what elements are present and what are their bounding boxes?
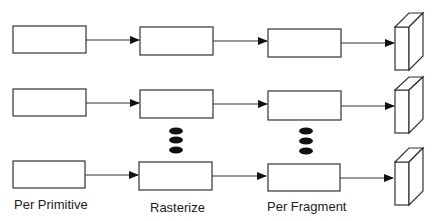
pipeline-row-2 bbox=[13, 77, 423, 133]
framebuffer-block-icon bbox=[395, 148, 423, 205]
per-primitive-box bbox=[13, 161, 85, 188]
rasterize-box bbox=[140, 27, 213, 55]
per-fragment-box bbox=[268, 29, 341, 57]
label-per-primitive: Per Primitive bbox=[14, 197, 88, 212]
per-fragment-box bbox=[268, 91, 341, 120]
label-per-fragment: Per Fragment bbox=[267, 199, 346, 214]
label-rasterize: Rasterize bbox=[150, 200, 205, 215]
per-primitive-box bbox=[13, 26, 86, 53]
per-fragment-box bbox=[268, 164, 340, 191]
pipeline-diagram bbox=[0, 0, 435, 221]
per-primitive-box bbox=[13, 89, 86, 116]
ellipsis-dots-rasterize bbox=[169, 128, 183, 154]
framebuffer-block-icon bbox=[395, 77, 423, 133]
ellipsis-dots-per-fragment bbox=[299, 128, 313, 155]
rasterize-box bbox=[140, 90, 213, 118]
framebuffer-block-icon bbox=[395, 13, 423, 70]
rasterize-box bbox=[139, 162, 212, 190]
pipeline-row-1 bbox=[13, 13, 423, 70]
